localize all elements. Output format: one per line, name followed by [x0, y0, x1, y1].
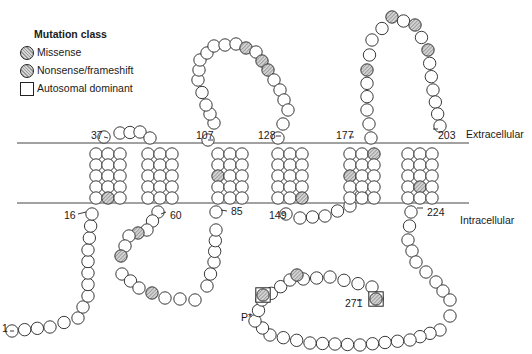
legend-title: Mutation class: [34, 29, 133, 40]
hatched-circle-icon: [20, 64, 34, 78]
residue-label: 177: [336, 129, 354, 141]
residue-label: 107: [196, 129, 214, 141]
legend-item-nonsense: Nonsense/frameshift: [20, 62, 133, 80]
legend-label: Autosomal dominant: [37, 83, 133, 94]
residue-label: 85: [231, 205, 243, 217]
residue-label: P*: [241, 311, 252, 323]
residue-label: 60: [170, 209, 182, 221]
open-square-icon: [20, 82, 34, 96]
legend: Mutation class Missense Nonsense/framesh…: [20, 29, 133, 98]
legend-item-autosomal-dominant: Autosomal dominant: [20, 80, 133, 98]
residue-label: 203: [438, 129, 456, 141]
legend-label: Missense: [37, 47, 81, 58]
residue-label: 224: [427, 206, 445, 218]
hatched-circle-icon: [20, 46, 34, 60]
intracellular-label: Intracellular: [460, 214, 514, 226]
legend-label: Nonsense/frameshift: [37, 65, 133, 76]
residue-label: 271: [345, 297, 363, 309]
residue-label: 128: [258, 129, 276, 141]
residue-label: 16: [64, 209, 76, 221]
extracellular-label: Extracellular: [466, 128, 524, 140]
residue-label: 149: [269, 209, 287, 221]
residue-label: 37: [91, 129, 103, 141]
residue-label: 1: [2, 322, 8, 334]
legend-item-missense: Missense: [20, 44, 133, 62]
